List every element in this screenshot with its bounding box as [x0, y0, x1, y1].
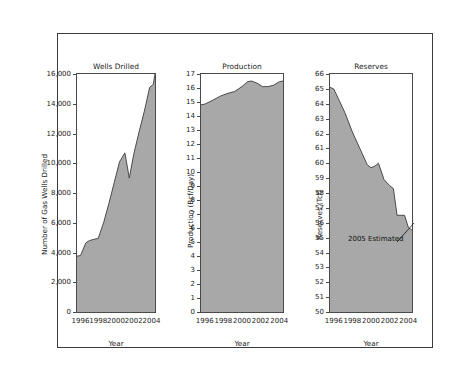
x-tick-label: 2000: [107, 317, 125, 325]
x-tick-label: 1998: [343, 317, 361, 325]
y-tick-label: 54: [310, 249, 324, 257]
x-axis-label-production: Year: [234, 339, 249, 348]
y-tick-mark: [197, 228, 200, 229]
x-tick-label: 1998: [214, 317, 232, 325]
annotation-leader-line: [397, 221, 427, 243]
y-tick-mark: [326, 238, 329, 239]
x-tick-label: 2002: [252, 317, 270, 325]
y-tick-mark: [326, 119, 329, 120]
x-axis-label-wells-drilled: Year: [108, 339, 123, 348]
y-tick-label: 61: [310, 144, 324, 152]
x-tick-label: 2004: [270, 317, 288, 325]
y-tick-mark: [197, 242, 200, 243]
y-tick-mark: [326, 163, 329, 164]
y-tick-label: 16,000: [37, 70, 71, 78]
y-tick-mark: [73, 253, 76, 254]
y-tick-label: 50: [310, 308, 324, 316]
y-tick-mark: [197, 88, 200, 89]
y-tick-mark: [197, 284, 200, 285]
y-tick-label: 6: [181, 224, 195, 232]
y-tick-mark: [73, 74, 76, 75]
y-tick-label: 3: [181, 266, 195, 274]
y-tick-mark: [326, 282, 329, 283]
y-tick-mark: [326, 148, 329, 149]
y-tick-label: 63: [310, 115, 324, 123]
y-tick-label: 60: [310, 159, 324, 167]
y-tick-label: 64: [310, 100, 324, 108]
x-tick-label: 2004: [399, 317, 417, 325]
y-tick-label: 7: [181, 210, 195, 218]
y-tick-mark: [73, 312, 76, 313]
y-tick-label: 62: [310, 130, 324, 138]
y-tick-mark: [197, 214, 200, 215]
y-tick-mark: [73, 223, 76, 224]
y-tick-label: 55: [310, 234, 324, 242]
y-tick-label: 6,000: [37, 219, 71, 227]
y-tick-mark: [326, 208, 329, 209]
y-tick-label: 10,000: [37, 159, 71, 167]
y-tick-mark: [326, 223, 329, 224]
y-tick-label: 59: [310, 174, 324, 182]
y-tick-mark: [326, 267, 329, 268]
y-tick-mark: [326, 178, 329, 179]
y-tick-label: 56: [310, 219, 324, 227]
x-tick-label: 1996: [196, 317, 214, 325]
y-tick-mark: [197, 270, 200, 271]
y-tick-mark: [326, 193, 329, 194]
y-tick-label: 58: [310, 189, 324, 197]
y-tick-label: 57: [310, 204, 324, 212]
y-tick-label: 0: [37, 308, 71, 316]
y-tick-label: 17: [181, 70, 195, 78]
y-tick-label: 13: [181, 126, 195, 134]
y-tick-label: 66: [310, 70, 324, 78]
y-tick-label: 5: [181, 238, 195, 246]
y-tick-label: 1: [181, 294, 195, 302]
y-tick-mark: [326, 104, 329, 105]
y-tick-label: 14: [181, 112, 195, 120]
plot-area-reserves: [329, 73, 413, 313]
y-tick-mark: [197, 74, 200, 75]
x-tick-label: 2002: [381, 317, 399, 325]
y-tick-label: 9: [181, 182, 195, 190]
y-tick-mark: [197, 158, 200, 159]
x-tick-label: 2000: [362, 317, 380, 325]
y-tick-label: 4: [181, 252, 195, 260]
y-tick-label: 51: [310, 293, 324, 301]
y-tick-label: 8: [181, 196, 195, 204]
y-tick-label: 11: [181, 154, 195, 162]
x-tick-label: 1996: [325, 317, 343, 325]
y-tick-label: 8,000: [37, 189, 71, 197]
y-tick-label: 2,000: [37, 278, 71, 286]
y-tick-mark: [197, 298, 200, 299]
y-tick-label: 16: [181, 84, 195, 92]
y-tick-mark: [197, 172, 200, 173]
y-tick-mark: [326, 89, 329, 90]
y-axis-label-reserves: Reserves (Tcf): [315, 190, 324, 240]
y-tick-mark: [326, 297, 329, 298]
y-tick-mark: [326, 312, 329, 313]
y-tick-label: 4,000: [37, 249, 71, 257]
y-tick-label: 12,000: [37, 130, 71, 138]
y-tick-mark: [197, 312, 200, 313]
y-tick-mark: [326, 253, 329, 254]
y-tick-label: 0: [181, 308, 195, 316]
x-tick-label: 1996: [72, 317, 90, 325]
x-tick-label: 2002: [125, 317, 143, 325]
y-tick-label: 15: [181, 98, 195, 106]
plot-area-production: [200, 73, 284, 313]
y-tick-mark: [197, 186, 200, 187]
y-tick-mark: [197, 144, 200, 145]
plot-area-wells-drilled: [76, 73, 156, 313]
y-tick-mark: [197, 256, 200, 257]
y-tick-label: 12: [181, 140, 195, 148]
panel-title-wells-drilled: Wells Drilled: [76, 62, 156, 71]
y-tick-label: 65: [310, 85, 324, 93]
y-tick-mark: [197, 130, 200, 131]
y-tick-mark: [73, 104, 76, 105]
y-tick-mark: [73, 193, 76, 194]
y-tick-mark: [73, 282, 76, 283]
y-tick-mark: [197, 200, 200, 201]
y-tick-mark: [326, 134, 329, 135]
y-axis-label-wells-drilled: Number of Gas Wells Drilled: [40, 154, 49, 255]
y-tick-mark: [73, 163, 76, 164]
